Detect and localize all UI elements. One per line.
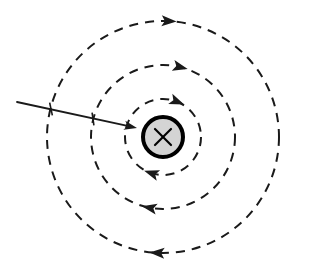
figure-canvas (0, 0, 317, 274)
current-into-page-wire (143, 117, 183, 157)
magnetic-field-diagram (0, 0, 317, 274)
